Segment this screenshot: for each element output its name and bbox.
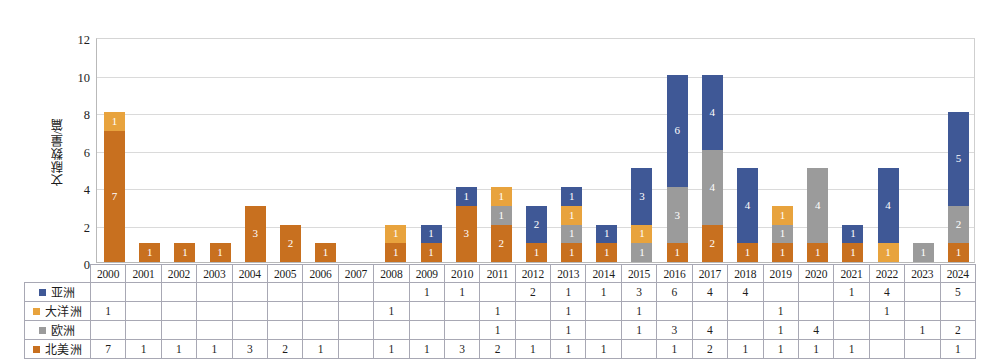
bar-value-label: 1	[499, 191, 505, 202]
bar-value-label: 4	[710, 107, 716, 118]
table-row: 亚洲112113644145	[25, 283, 976, 302]
table-cell: 2	[515, 283, 550, 302]
bar-column: 14	[878, 168, 899, 262]
table-year-header: 2022	[869, 265, 904, 283]
table-cell	[126, 283, 161, 302]
table-cell	[692, 302, 727, 321]
bar-value-label: 1	[217, 247, 223, 258]
table-cell	[905, 302, 940, 321]
table-cell	[515, 321, 550, 340]
legend-item[interactable]: 亚洲	[25, 283, 91, 302]
bar-value-label: 4	[885, 200, 891, 211]
bar-value-label: 2	[499, 238, 505, 249]
bar-value-label: 1	[112, 116, 118, 127]
bar-segment: 1	[174, 243, 195, 262]
bar-segment: 1	[596, 225, 617, 244]
table-cell: 1	[197, 340, 232, 359]
table-cell	[338, 283, 373, 302]
table-year-header: 2003	[197, 265, 232, 283]
y-axis-tick-label: 10	[78, 70, 91, 85]
table-cell: 1	[763, 321, 798, 340]
bar-value-label: 1	[499, 210, 505, 221]
table-year-header: 2009	[409, 265, 444, 283]
bar-value-label: 1	[569, 228, 575, 239]
table-cell	[409, 302, 444, 321]
bar-value-label: 1	[674, 247, 680, 258]
table-cell	[303, 283, 338, 302]
bar-value-label: 1	[956, 247, 962, 258]
table-cell	[303, 302, 338, 321]
legend-item[interactable]: 北美洲	[25, 340, 91, 359]
legend-label: 欧洲	[51, 321, 76, 339]
bar-segment: 5	[948, 112, 969, 206]
table-corner	[25, 265, 91, 283]
bar-segment: 6	[667, 75, 688, 188]
bar-segment: 4	[878, 168, 899, 243]
table-year-header: 2023	[905, 265, 940, 283]
table-cell	[834, 321, 869, 340]
table-cell: 1	[657, 340, 692, 359]
bar-value-label: 1	[182, 247, 188, 258]
table-year-header: 2015	[621, 265, 656, 283]
table-cell: 1	[551, 340, 586, 359]
bar-column: 14	[737, 168, 758, 262]
table-cell: 1	[586, 340, 621, 359]
bar-column: 211	[491, 187, 512, 262]
legend-label: 北美洲	[45, 340, 83, 358]
table-cell: 1	[126, 340, 161, 359]
bar-value-label: 1	[428, 228, 434, 239]
table-cell	[338, 302, 373, 321]
table-cell	[126, 321, 161, 340]
table-cell: 1	[763, 302, 798, 321]
bar-value-label: 1	[745, 247, 751, 258]
bar-segment: 1	[456, 187, 477, 206]
table-cell	[161, 302, 196, 321]
bar-segment: 1	[596, 243, 617, 262]
bar-value-label: 1	[463, 191, 469, 202]
legend-item[interactable]: 欧洲	[25, 321, 91, 340]
table-header: 2000200120022003200420052006200720082009…	[25, 265, 976, 283]
bar-column: 11	[385, 225, 406, 263]
table-cell	[197, 302, 232, 321]
legend-swatch-icon	[33, 308, 40, 315]
bar-value-label: 1	[569, 191, 575, 202]
y-axis-tick-label: 2	[84, 220, 90, 235]
table-cell: 1	[161, 340, 196, 359]
legend-swatch-icon	[39, 289, 46, 296]
bar-segment: 1	[631, 225, 652, 244]
table-cell	[798, 283, 833, 302]
bar-column: 1	[210, 243, 231, 262]
table-cell: 2	[267, 340, 302, 359]
bar-value-label: 1	[569, 210, 575, 221]
bar-segment: 1	[385, 243, 406, 262]
table-year-header: 2011	[480, 265, 515, 283]
table-cell	[798, 302, 833, 321]
table-cell: 1	[834, 340, 869, 359]
table-cell: 1	[621, 321, 656, 340]
table-cell: 1	[728, 340, 763, 359]
bar-value-label: 1	[323, 247, 329, 258]
table-cell: 1	[763, 340, 798, 359]
table-cell: 4	[869, 283, 904, 302]
bar-segment: 1	[104, 112, 125, 131]
bar-column: 244	[702, 75, 723, 263]
table-cell	[338, 340, 373, 359]
table-cell: 2	[940, 321, 975, 340]
bar-value-label: 2	[956, 219, 962, 230]
legend-item[interactable]: 大洋洲	[25, 302, 91, 321]
table-cell	[232, 283, 267, 302]
bar-value-label: 1	[639, 228, 645, 239]
bar-value-label: 4	[745, 200, 751, 211]
bar-value-label: 1	[780, 210, 786, 221]
plot-area: 024681012 711113211111312111211111111313…	[96, 38, 975, 263]
table-cell: 2	[692, 340, 727, 359]
bar-segment: 1	[385, 225, 406, 244]
bar-value-label: 2	[534, 219, 540, 230]
bar-column: 11	[842, 225, 863, 263]
bar-segment: 4	[702, 75, 723, 150]
bar-segment: 1	[913, 243, 934, 262]
bar-segment: 4	[807, 168, 828, 243]
bar-column: 1	[913, 243, 934, 262]
bar-segment: 1	[561, 225, 582, 244]
bar-column: 1111	[561, 187, 582, 262]
